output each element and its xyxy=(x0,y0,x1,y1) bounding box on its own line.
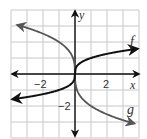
y-tick-neg2: −2 xyxy=(58,100,71,112)
x-tick-neg2: −2 xyxy=(34,78,47,90)
x-axis-label: x xyxy=(129,78,136,92)
cube-root-graph: −2 2 x y −2 f g xyxy=(0,0,147,139)
g-label: g xyxy=(127,102,134,117)
x-tick-pos2: 2 xyxy=(103,78,109,90)
y-axis-label: y xyxy=(78,8,85,22)
